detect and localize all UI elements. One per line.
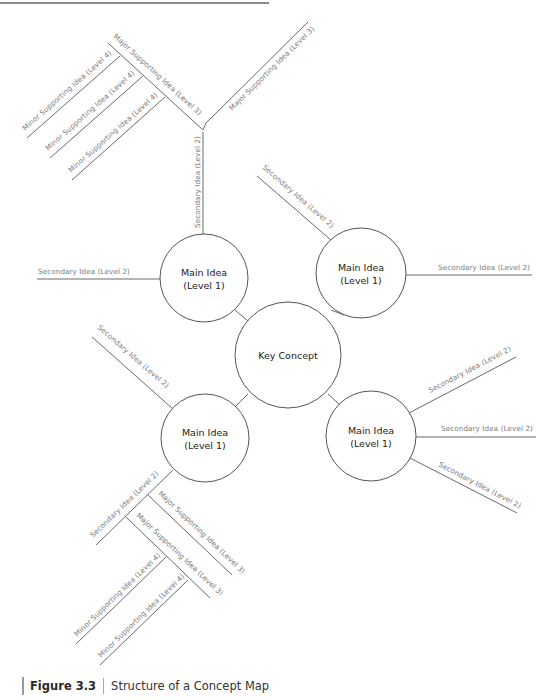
key-concept-node: Key Concept — [235, 302, 341, 408]
minor-label-2: Minor Supporting Idea (Level 4) — [43, 68, 136, 152]
secondary-diag-label: Secondary Idea (Level 2) — [261, 163, 336, 230]
minor-label-2: Minor Supporting Idea (Level 4) — [96, 572, 186, 659]
secondary-upper-label: Secondary Idea (Level 2) — [427, 344, 513, 394]
main-idea-level: (Level 1) — [183, 280, 225, 291]
main-idea-circle — [326, 391, 416, 481]
secondary-upper-label: Secondary Idea (Level 2) — [96, 323, 171, 390]
major-right-line — [206, 22, 308, 123]
main-idea-circle — [161, 394, 249, 482]
main-idea-node-bottom-right: Main Idea (Level 1) — [326, 391, 416, 481]
secondary-middle-label: Secondary Idea (Level 2) — [441, 424, 533, 433]
bottom-right-cluster: Secondary Idea (Level 2) Secondary Idea … — [409, 344, 536, 513]
figure-number: Figure 3.3 — [30, 679, 96, 693]
main-idea-level: (Level 1) — [340, 275, 382, 286]
junction-stub — [203, 123, 206, 130]
main-idea-level: (Level 1) — [184, 440, 226, 451]
major-right-label: Major Supporting Idea (Level 3) — [227, 24, 316, 112]
secondary-left-label: Secondary Idea (Level 2) — [38, 267, 130, 276]
figure-caption: Figure 3.3 Structure of a Concept Map — [22, 676, 269, 696]
main-idea-circle — [316, 228, 406, 318]
main-idea-label: Main Idea — [338, 262, 384, 273]
secondary-upper-line — [409, 357, 516, 413]
secondary-lower-line — [410, 458, 517, 513]
concept-map-diagram: Secondary Idea (Level 2) Major Supportin… — [0, 0, 548, 700]
major-label-2: Major Supporting Idea (Level 3) — [135, 511, 226, 598]
main-idea-level: (Level 1) — [350, 438, 392, 449]
caption-separator — [103, 678, 104, 694]
minor-label-1: Minor Supporting Idea (Level 4) — [20, 48, 113, 132]
caption-bar — [22, 677, 24, 695]
connector-bottom-right — [328, 394, 340, 405]
main-idea-node-top-right: Main Idea (Level 1) — [316, 228, 406, 318]
secondary-right-label: Secondary Idea (Level 2) — [438, 263, 530, 272]
secondary-vertical-label: Secondary Idea (Level 2) — [193, 136, 202, 228]
key-concept-label: Key Concept — [258, 350, 318, 361]
top-left-cluster: Secondary Idea (Level 2) Major Supportin… — [20, 22, 316, 279]
main-idea-circle — [160, 234, 248, 322]
figure-title: Structure of a Concept Map — [111, 679, 269, 693]
bottom-left-cluster: Secondary Idea (Level 2) Secondary Idea … — [72, 323, 247, 665]
major-label-1: Major Supporting Idea (Level 3) — [157, 489, 248, 576]
main-idea-label: Main Idea — [181, 267, 227, 278]
minor-label-1: Minor Supporting Idea (Level 4) — [72, 551, 162, 638]
secondary-lower-label: Secondary Idea (Level 2) — [437, 460, 523, 510]
main-idea-node-top-left: Main Idea (Level 1) — [160, 234, 248, 322]
main-idea-label: Main Idea — [348, 425, 394, 436]
main-idea-label: Main Idea — [182, 427, 228, 438]
connector-top-left — [235, 310, 249, 322]
connector-bottom-left — [236, 394, 248, 406]
main-idea-node-bottom-left: Main Idea (Level 1) — [161, 394, 249, 482]
